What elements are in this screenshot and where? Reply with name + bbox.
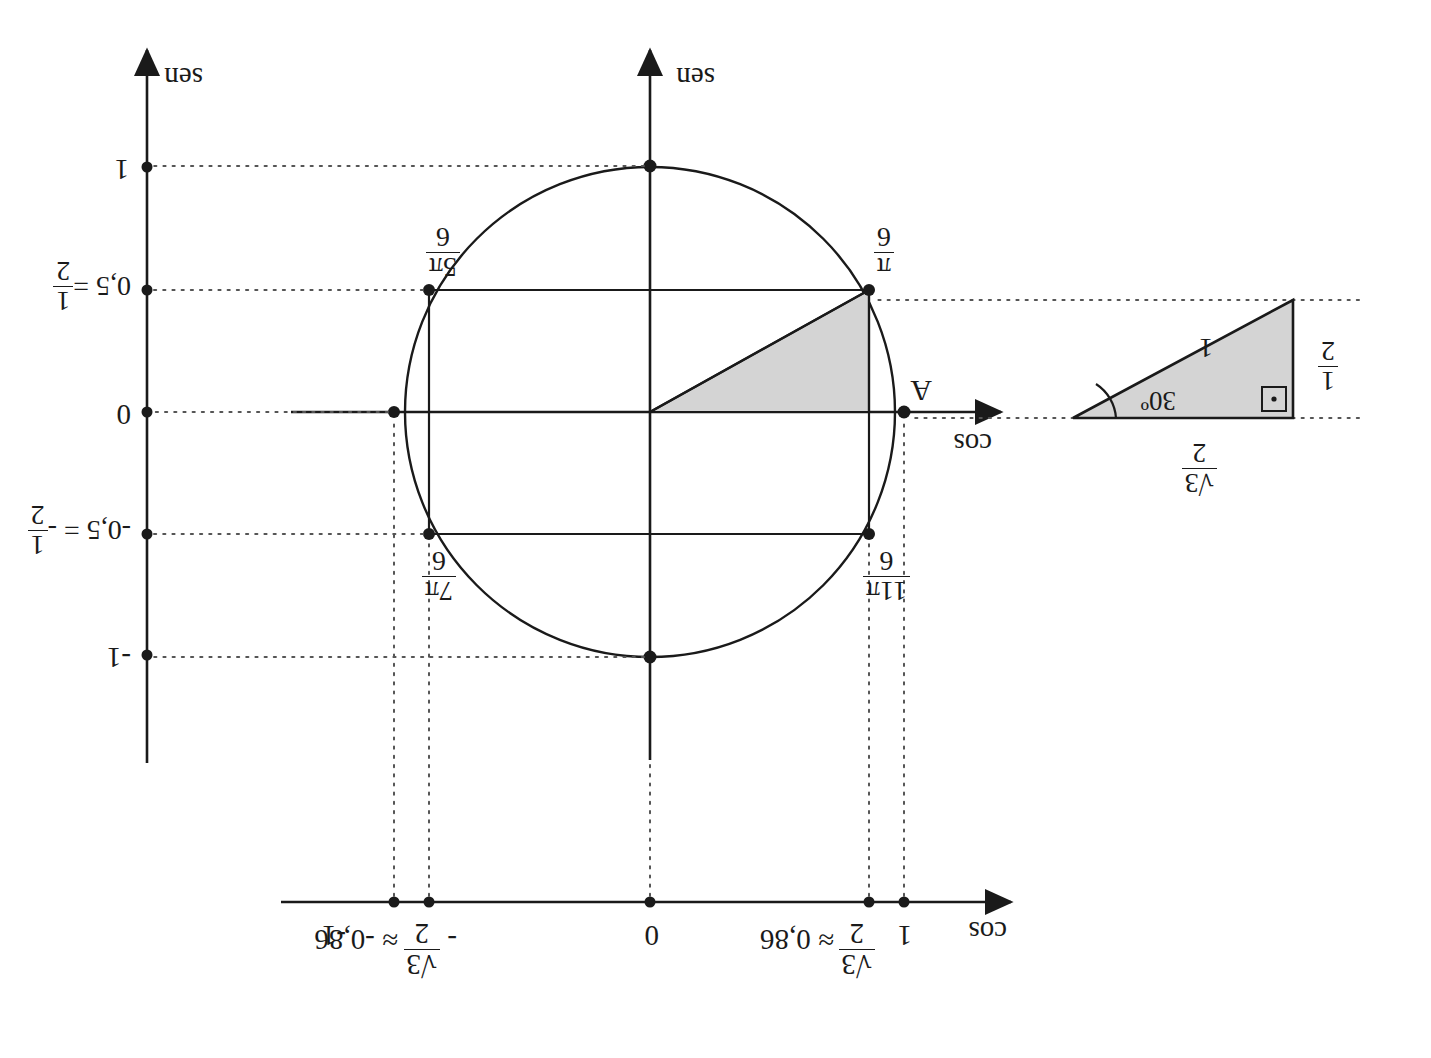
- figure-canvas: cos 1 √3 2 ≈ 0,86 0 - √3 2 ≈ -0,86 -1 se…: [0, 0, 1431, 1058]
- sen-tick-label-0: 0: [117, 400, 132, 429]
- sen-tick-neg-half-text: -0,5 = -: [48, 516, 131, 544]
- sen-tick-neg-half-den: 2: [28, 501, 48, 531]
- cos-tick-neg-sqrt3-den: 2: [404, 919, 440, 950]
- sen-tick-label-half: 0,5 = 1 2: [53, 257, 131, 316]
- cos-tick-label-neg-1: -1: [322, 921, 346, 950]
- sen-tick-label-neg-half: -0,5 = - 1 2: [28, 501, 131, 560]
- cos-tick-label-neg-sqrt3-over-2: √3 2: [404, 919, 440, 980]
- angle-7pi-num: 7π: [422, 577, 456, 606]
- reference-triangle-hypotenuse-label: 1: [1199, 334, 1213, 362]
- cos-tick-sqrt3-num: √3: [839, 950, 875, 980]
- sen-axis-center-label: sen: [676, 63, 715, 92]
- angle-label-pi-over-6: π 6: [874, 223, 894, 282]
- reference-triangle-angle-label: 30º: [1141, 387, 1176, 414]
- reference-triangle-adjacent-label: √3 2: [1182, 439, 1217, 498]
- angle-label-11pi-over-6: 11π 6: [863, 547, 910, 606]
- cos-tick-sqrt3-den: 2: [839, 919, 875, 950]
- cos-tick-label-1: 1: [898, 921, 913, 950]
- sen-tick-half-den: 2: [53, 257, 73, 287]
- sen-tick-label-neg-1: -1: [107, 643, 131, 672]
- reference-triangle-opposite-label: 1 2: [1318, 337, 1338, 396]
- cos-tick-neg-sign: -: [447, 925, 457, 954]
- angle-pi-num: π: [874, 253, 894, 282]
- angle-5pi-num: 5π: [426, 253, 460, 282]
- diagram-svg: [0, 0, 1431, 1058]
- cos-axis-inner-label: cos: [953, 429, 992, 458]
- rotated-figure-group: cos 1 √3 2 ≈ 0,86 0 - √3 2 ≈ -0,86 -1 se…: [0, 0, 1431, 1058]
- ref-adj-den: 2: [1182, 439, 1217, 469]
- angle-7pi-den: 6: [422, 547, 456, 577]
- angle-label-7pi-over-6: 7π 6: [422, 547, 456, 606]
- cos-tick-approx-0-86: ≈ 0,86: [760, 925, 834, 954]
- cos-axis-label: cos: [968, 917, 1007, 946]
- cos-tick-label-sqrt3-over-2: √3 2: [839, 919, 875, 980]
- sen-tick-half-num: 1: [53, 287, 73, 316]
- angle-label-5pi-over-6: 5π 6: [426, 223, 460, 282]
- reference-triangle-shape: [1073, 300, 1293, 418]
- point-a-label: A: [910, 376, 932, 406]
- ref-opp-den: 2: [1318, 337, 1338, 367]
- ref-opp-num: 1: [1318, 367, 1338, 396]
- angle-5pi-den: 6: [426, 223, 460, 253]
- angle-11pi-num: 11π: [863, 577, 910, 606]
- angle-pi-den: 6: [874, 223, 894, 253]
- ref-adj-num: √3: [1182, 469, 1217, 498]
- cos-tick-label-0: 0: [645, 921, 660, 950]
- sen-tick-neg-half-num: 1: [28, 531, 48, 560]
- cos-tick-neg-sqrt3-num: √3: [404, 950, 440, 980]
- sen-axis-right-label: sen: [164, 63, 203, 92]
- sen-tick-half-text: 0,5 =: [73, 272, 131, 300]
- sen-tick-label-1: 1: [115, 155, 130, 184]
- angle-11pi-den: 6: [863, 547, 910, 577]
